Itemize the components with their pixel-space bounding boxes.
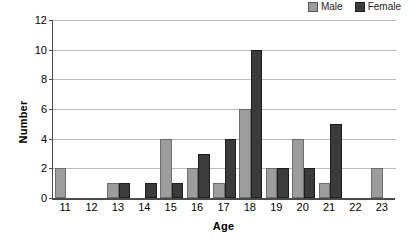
bar-female-15 xyxy=(172,183,184,198)
x-axis-tick-label: 14 xyxy=(138,201,150,214)
x-axis-line xyxy=(52,198,395,200)
bar-female-13 xyxy=(119,183,131,198)
legend-swatch-male-icon xyxy=(308,2,318,12)
y-axis-tick-label: 8 xyxy=(41,74,47,85)
bar-male-17 xyxy=(213,183,225,198)
bar-female-19 xyxy=(277,168,289,198)
bar-male-16 xyxy=(187,168,199,198)
x-axis-tick-label: 19 xyxy=(270,201,282,214)
bar-group xyxy=(53,20,396,198)
bar-female-14 xyxy=(145,183,157,198)
x-axis-tick-label: 17 xyxy=(217,201,229,214)
bar-male-19 xyxy=(266,168,278,198)
legend-entry-male: Male xyxy=(308,2,343,12)
x-axis-tick-label: 20 xyxy=(297,201,309,214)
x-axis-tick-label: 13 xyxy=(112,201,124,214)
y-axis-tick-label: 10 xyxy=(35,44,47,55)
x-axis-title: Age xyxy=(52,220,395,232)
bar-male-15 xyxy=(160,139,172,198)
legend-entry-female: Female xyxy=(355,2,401,12)
bar-male-13 xyxy=(107,183,119,198)
x-axis-tick-label: 12 xyxy=(85,201,97,214)
legend-label-female: Female xyxy=(368,2,401,12)
bar-female-17 xyxy=(225,139,237,198)
y-axis-tick-label: 12 xyxy=(35,15,47,26)
bar-female-21 xyxy=(330,124,342,198)
y-axis-tick-label: 0 xyxy=(41,193,47,204)
bar-male-18 xyxy=(239,109,251,198)
x-axis-tick-label: 15 xyxy=(165,201,177,214)
x-axis-tick-label: 22 xyxy=(349,201,361,214)
y-axis-tick-label: 6 xyxy=(41,104,47,115)
bar-female-20 xyxy=(304,168,316,198)
y-axis-tick-label: 2 xyxy=(41,163,47,174)
bar-male-23 xyxy=(371,168,383,198)
bar-male-11 xyxy=(55,168,67,198)
bar-female-16 xyxy=(198,154,210,199)
x-axis-tick-labels: 11121314151617181920212223 xyxy=(52,201,395,217)
bar-male-21 xyxy=(319,183,331,198)
y-axis-tick-label: 4 xyxy=(41,133,47,144)
x-axis-tick-label: 23 xyxy=(376,201,388,214)
chart-legend: Male Female xyxy=(308,2,401,12)
legend-swatch-female-icon xyxy=(355,2,365,12)
bar-chart: Male Female Number 024681012 11121314151… xyxy=(0,0,409,243)
bar-male-20 xyxy=(292,139,304,198)
x-axis-tick-label: 18 xyxy=(244,201,256,214)
plot-area: 024681012 xyxy=(52,20,396,198)
x-axis-tick-label: 16 xyxy=(191,201,203,214)
x-axis-tick-label: 11 xyxy=(59,201,70,214)
y-axis-title: Number xyxy=(17,100,29,143)
x-axis-tick-label: 21 xyxy=(323,201,335,214)
bar-female-18 xyxy=(251,50,263,198)
legend-label-male: Male xyxy=(321,2,343,12)
